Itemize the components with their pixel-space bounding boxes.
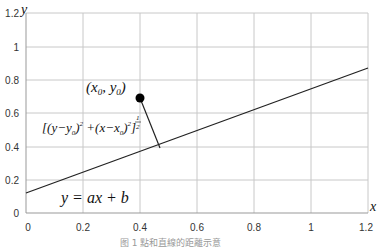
svg-text:0.8: 0.8: [247, 222, 261, 233]
distance-formula: [(y−y0)2 +(x−x0)2]: [42, 120, 136, 137]
y-axis-label: y: [19, 2, 28, 17]
point-label: (x0, y0): [86, 79, 126, 97]
svg-text:1: 1: [308, 222, 314, 233]
svg-text:1.2: 1.2: [359, 222, 373, 233]
svg-text:1.2: 1.2: [5, 8, 19, 19]
svg-text:0.6: 0.6: [5, 108, 19, 119]
svg-text:0.2: 0.2: [5, 175, 19, 186]
x-tick-labels: 0 0.2 0.4 0.6 0.8 1 1.2: [25, 222, 373, 233]
grid: [26, 13, 368, 213]
figure-caption: 图 1 點和直線的距離示意: [120, 236, 221, 249]
svg-text:0.2: 0.2: [76, 222, 90, 233]
svg-text:2: 2: [136, 123, 140, 131]
distance-exponent: 1: [136, 114, 140, 122]
svg-text:0: 0: [13, 208, 19, 219]
svg-text:1: 1: [13, 42, 19, 53]
svg-text:0: 0: [25, 222, 31, 233]
svg-text:0.8: 0.8: [5, 75, 19, 86]
y-tick-labels: 1.2 1 0.8 0.6 0.4 0.2 0: [5, 8, 19, 219]
svg-text:0.4: 0.4: [5, 142, 19, 153]
svg-text:0.4: 0.4: [133, 222, 147, 233]
line-equation-label: y = ax + b: [59, 189, 129, 207]
svg-text:0.6: 0.6: [190, 222, 204, 233]
perpendicular-segment: [140, 98, 160, 148]
point-x0-y0: [136, 94, 145, 103]
x-axis-label: x: [369, 199, 377, 214]
